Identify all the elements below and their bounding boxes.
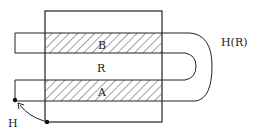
label-b: B bbox=[98, 40, 106, 51]
label-r: R bbox=[97, 63, 105, 74]
point-h-image bbox=[13, 98, 17, 102]
label-hr: H(R) bbox=[221, 37, 247, 48]
horseshoe-inner bbox=[15, 53, 196, 80]
arrow-curve bbox=[20, 105, 44, 121]
diagram-canvas bbox=[0, 0, 259, 135]
point-h bbox=[45, 120, 49, 124]
label-h: H bbox=[8, 118, 18, 129]
label-a: A bbox=[98, 87, 106, 98]
